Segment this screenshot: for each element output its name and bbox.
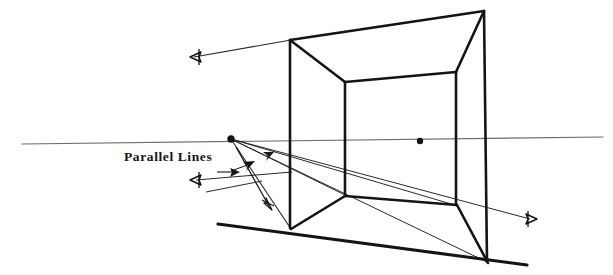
arrow-lower-right-head-icon (526, 211, 537, 227)
right-vanishing-point (417, 138, 423, 144)
perspective-box (290, 11, 488, 263)
box-edge-top-left-receding (290, 40, 345, 82)
box-edge-bottom-left-receding (291, 196, 345, 229)
box-edge-top-front (290, 11, 484, 40)
box-edge-front-right-vertical (484, 11, 487, 262)
guide-short-lower-left (206, 181, 262, 192)
left-vanishing-point (227, 135, 234, 142)
parallel-lines-label: Parallel Lines (124, 150, 212, 164)
perspective-drawing-figure: Parallel Lines (0, 0, 613, 275)
box-edge-top-right-receding (456, 11, 484, 72)
perspective-drawing-canvas (0, 0, 613, 275)
ray-top-left-to-arrow (194, 40, 291, 57)
ground-line (218, 224, 527, 265)
horizon-line (22, 137, 603, 144)
arrow-mid-left-head-icon (190, 172, 201, 188)
box-edge-top-back (345, 72, 456, 82)
box-edge-bottom-right-receding (457, 205, 488, 263)
guide-to-left-arrow (196, 172, 292, 180)
